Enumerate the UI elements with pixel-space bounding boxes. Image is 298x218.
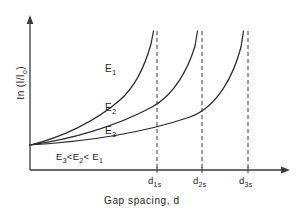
tick-label-d3s-sub: 3s xyxy=(245,181,253,188)
y-axis-title-suffix: ) xyxy=(15,66,26,70)
curve-label-e2: E2 xyxy=(105,103,116,116)
tick-label-d2s: d2s xyxy=(193,176,207,188)
inequality-annotation: E3<E2< E1 xyxy=(56,152,103,164)
inequality-part-1: E xyxy=(56,151,63,162)
y-axis-title-main: n (I/I xyxy=(15,74,26,96)
tick-label-d1s: d1s xyxy=(148,176,162,188)
curve-label-e3-base: E xyxy=(105,125,112,136)
tick-label-d2s-sub: 2s xyxy=(199,181,207,188)
curve-label-e1: E1 xyxy=(105,64,116,77)
inequality-part-6: 1 xyxy=(99,157,103,164)
curve-label-e1-base: E xyxy=(105,63,112,74)
x-axis-arrowhead xyxy=(281,167,290,174)
curve-label-e2-base: E xyxy=(105,102,112,113)
inequality-part-3: <E xyxy=(67,151,79,162)
curve-label-e2-sub: 2 xyxy=(112,107,116,116)
tick-label-d3s: d3s xyxy=(239,176,253,188)
curve-label-e3-sub: 3 xyxy=(112,130,116,139)
chart-figure: ℓn (I/Io) E1 E2 E3 E3<E2< E1 d1s d2s d3s… xyxy=(0,0,298,218)
curve-label-e1-sub: 1 xyxy=(112,68,116,77)
inequality-part-5: < E xyxy=(84,151,99,162)
curve-e1 xyxy=(30,31,154,145)
tick-label-d1s-sub: 1s xyxy=(154,181,162,188)
y-axis-title-prefix: ℓ xyxy=(15,96,26,100)
x-axis-title: Gap spacing, d xyxy=(104,196,180,206)
curve-label-e3: E3 xyxy=(105,126,116,139)
curve-e3 xyxy=(30,31,244,145)
y-axis-title-sub: o xyxy=(21,70,28,74)
y-axis-arrowhead xyxy=(27,15,34,24)
y-axis-title: ℓn (I/Io) xyxy=(16,66,28,100)
